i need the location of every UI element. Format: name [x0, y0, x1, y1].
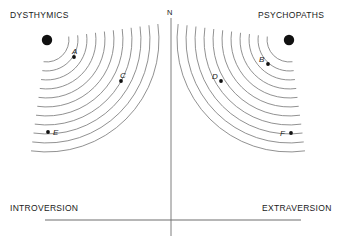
- case-points: [46, 55, 293, 135]
- case-point-B: [266, 62, 270, 66]
- axis-label-extraversion: EXTRAVERSION: [262, 203, 332, 213]
- psychopath-pole: [284, 35, 294, 45]
- quadrant-label-psychopaths: PSYCHOPATHS: [258, 10, 324, 20]
- case-point-F: [289, 131, 293, 135]
- dysthymic-pole: [42, 35, 52, 45]
- axis-label-introversion: INTROVERSION: [10, 203, 78, 213]
- origin-poles: [42, 35, 294, 45]
- case-point-D: [219, 79, 223, 83]
- case-point-label-E: E: [53, 128, 59, 137]
- psychoticism-extraversion-diagram: DYSTHYMICS PSYCHOPATHS INTROVERSION EXTR…: [0, 0, 343, 245]
- case-point-label-F: F: [280, 129, 285, 138]
- case-point-label-A: A: [72, 47, 78, 56]
- axis-label-n: N: [167, 8, 173, 17]
- case-point-label-C: C: [120, 71, 126, 80]
- case-point-E: [46, 130, 50, 134]
- quadrant-label-dysthymics: DYSTHYMICS: [10, 10, 69, 20]
- case-point-label-D: D: [212, 72, 218, 81]
- case-point-label-B: B: [259, 55, 265, 64]
